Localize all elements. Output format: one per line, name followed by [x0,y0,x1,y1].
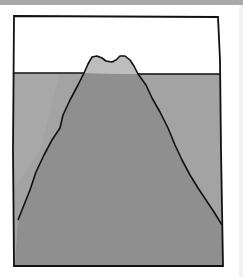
iceberg-illustration [0,0,243,277]
iceberg-above-water [84,56,138,74]
